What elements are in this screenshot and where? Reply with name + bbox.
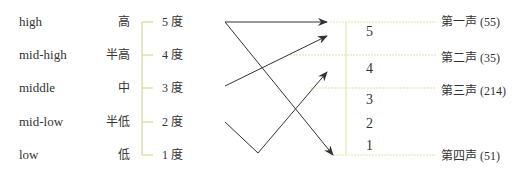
tone-2-label: 第二声 (35) (441, 50, 500, 66)
scale-2: 2 (366, 116, 373, 132)
level-en-high: high (19, 14, 42, 30)
scale-5: 5 (366, 24, 373, 40)
level-en-mid-low: mid-low (19, 114, 63, 130)
scale-3: 3 (366, 92, 373, 108)
degree-1: 1 度 (162, 147, 183, 163)
degree-3: 3 度 (162, 80, 183, 96)
scale-4: 4 (366, 61, 373, 77)
right-scale (290, 22, 436, 155)
tone-4-label: 第四声 (51) (441, 148, 500, 164)
level-zh-low: 低 (90, 147, 130, 163)
degree-4: 4 度 (162, 47, 183, 63)
degree-2: 2 度 (162, 114, 183, 130)
scale-1: 1 (366, 138, 373, 154)
level-zh-mid-high: 半高 (90, 47, 130, 63)
level-en-middle: middle (19, 80, 55, 96)
arrow-tone2 (225, 36, 327, 86)
tone-3-label: 第三声 (214) (441, 83, 506, 99)
degree-5: 5 度 (162, 14, 183, 30)
level-en-low: low (19, 147, 39, 163)
level-zh-middle: 中 (90, 80, 130, 96)
level-zh-high: 高 (90, 14, 130, 30)
left-bracket (142, 22, 153, 155)
level-zh-mid-low: 半低 (90, 114, 130, 130)
tone-1-label: 第一声 (55) (441, 14, 500, 30)
level-en-mid-high: mid-high (19, 47, 67, 63)
